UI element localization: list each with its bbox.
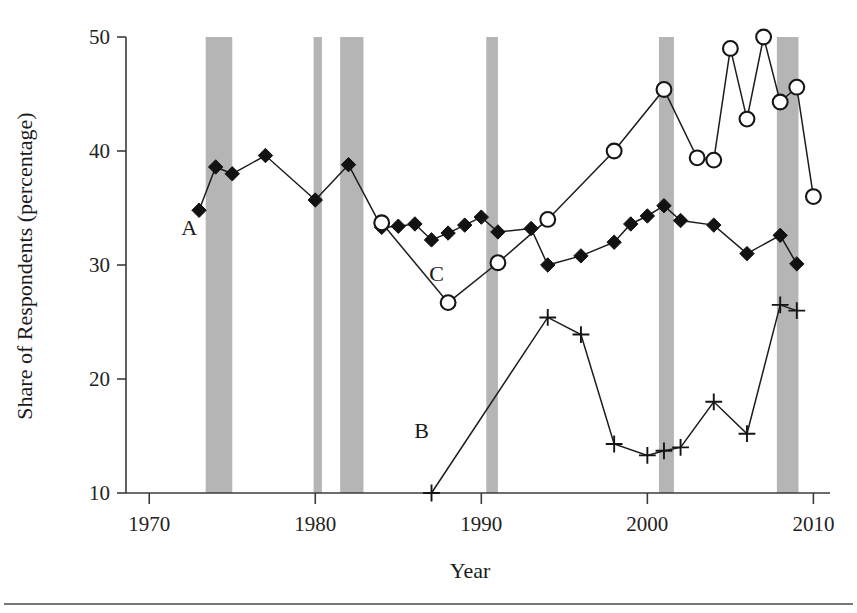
data-point-C-2010: [806, 189, 821, 204]
data-point-C-2003: [690, 150, 705, 165]
series-label-B: B: [414, 418, 429, 443]
data-point-C-1998: [607, 144, 622, 159]
y-tick-label-10: 10: [89, 481, 110, 505]
data-point-C-1988: [441, 295, 456, 310]
y-tick-label-50: 50: [89, 25, 110, 49]
x-tick-label-1980: 1980: [294, 512, 336, 536]
y-axis-title: Share of Respondents (percentage): [12, 112, 37, 419]
x-tick-label-1990: 1990: [460, 512, 502, 536]
data-point-C-2007: [756, 30, 771, 45]
y-tick-label-20: 20: [89, 367, 110, 391]
data-point-C-2008: [773, 95, 788, 110]
data-point-C-2009: [789, 80, 804, 95]
x-tick-label-2000: 2000: [626, 512, 668, 536]
series-label-A: A: [181, 215, 197, 240]
x-axis-title: Year: [450, 558, 491, 583]
x-tick-label-1970: 1970: [128, 512, 170, 536]
x-tick-label-2010: 2010: [792, 512, 834, 536]
recession-band-1: [206, 37, 233, 493]
chart-figure: 1020304050 19701980199020002010 ABC Shar…: [0, 0, 857, 613]
data-point-C-2005: [723, 41, 738, 56]
recession-band-3: [340, 37, 363, 493]
recession-band-2: [314, 37, 322, 493]
data-point-C-1994: [540, 212, 555, 227]
data-point-C-2001: [657, 82, 672, 97]
y-tick-label-40: 40: [89, 139, 110, 163]
y-tick-label-30: 30: [89, 253, 110, 277]
data-point-C-2006: [740, 112, 755, 127]
data-point-C-2004: [706, 153, 721, 168]
data-point-C-1984: [374, 215, 389, 230]
series-label-C: C: [429, 261, 444, 286]
data-point-C-1991: [491, 255, 506, 270]
